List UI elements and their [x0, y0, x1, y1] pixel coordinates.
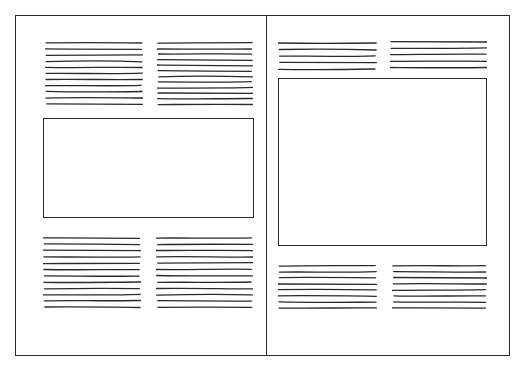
text-line-stroke — [280, 56, 376, 57]
center-gutter — [266, 15, 267, 356]
text-line-stroke — [43, 294, 140, 295]
text-line-stroke — [46, 55, 143, 56]
text-line-stroke — [44, 244, 139, 245]
text-line-stroke — [392, 290, 485, 291]
text-line-stroke — [44, 282, 141, 283]
rp-top-b-text-column — [390, 40, 487, 76]
text-line-stroke — [156, 288, 252, 289]
lp-top-a-text-column — [45, 41, 143, 113]
text-line-stroke — [158, 43, 252, 44]
text-line-stroke — [279, 49, 376, 50]
text-line-stroke — [156, 269, 251, 270]
text-line-stroke — [157, 60, 252, 61]
text-line-stroke — [45, 49, 141, 50]
text-line-stroke — [279, 266, 375, 267]
rp-image-placeholder — [278, 78, 487, 246]
text-line-stroke — [279, 272, 376, 273]
text-line-stroke — [390, 54, 486, 55]
lp-top-b-text-column — [157, 41, 253, 113]
lp-bot-a-text-column — [43, 236, 141, 316]
rp-top-a-text-column — [278, 41, 377, 78]
text-line-stroke — [43, 250, 141, 251]
text-line-stroke — [157, 87, 253, 88]
text-line-stroke — [158, 301, 252, 302]
text-line-stroke — [159, 76, 253, 77]
text-line-stroke — [157, 294, 253, 295]
text-line-stroke — [46, 61, 142, 62]
text-line-stroke — [391, 48, 487, 49]
diagram-title: Two-page spread layout sketch — [16, 16, 17, 17]
rp-bot-b-text-column — [392, 264, 487, 316]
text-line-stroke — [278, 296, 376, 297]
text-line-stroke — [157, 65, 252, 66]
text-line-stroke — [46, 91, 142, 92]
text-line-stroke — [45, 307, 140, 308]
text-line-stroke — [158, 71, 251, 72]
text-line-stroke — [43, 238, 140, 239]
text-line-stroke — [394, 278, 487, 279]
lp-image-placeholder — [43, 118, 254, 218]
lp-bot-b-text-column — [156, 236, 253, 316]
text-line-stroke — [279, 69, 375, 70]
rp-bot-a-text-column — [278, 264, 377, 316]
text-line-stroke — [394, 272, 486, 273]
